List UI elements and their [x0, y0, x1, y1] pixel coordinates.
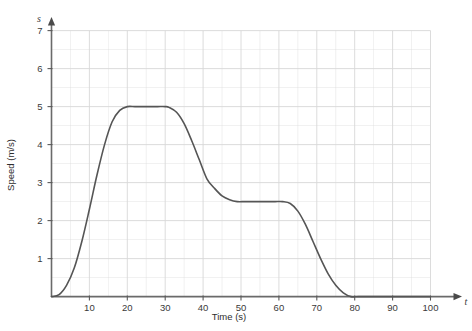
- y-axis-ticks: 1234567: [37, 25, 52, 264]
- x-axis-ticks: 102030405060708090100: [84, 296, 438, 313]
- speed-time-graph: 1234567 102030405060708090100 s t Time (…: [0, 0, 472, 331]
- y-tick-label: 7: [37, 25, 42, 36]
- x-tick-label: 40: [198, 302, 209, 313]
- x-tick-label: 10: [84, 302, 95, 313]
- x-tick-label: 100: [423, 302, 439, 313]
- y-tick-label: 3: [37, 177, 42, 188]
- x-axis-title: Time (s): [212, 311, 246, 322]
- y-tick-label: 2: [37, 215, 42, 226]
- x-tick-label: 80: [349, 302, 360, 313]
- y-axis-symbol: s: [37, 13, 41, 24]
- y-tick-label: 6: [37, 63, 42, 74]
- x-tick-label: 90: [387, 302, 398, 313]
- y-axis-title: Speed (m/s): [5, 139, 16, 191]
- x-tick-label: 30: [160, 302, 171, 313]
- x-tick-label: 60: [274, 302, 285, 313]
- axis-lines: [48, 17, 462, 300]
- y-tick-label: 5: [37, 101, 42, 112]
- x-tick-label: 20: [122, 302, 133, 313]
- y-tick-label: 1: [37, 253, 42, 264]
- x-tick-label: 70: [312, 302, 323, 313]
- chart-canvas: 1234567 102030405060708090100 s t Time (…: [0, 0, 472, 331]
- y-tick-label: 4: [37, 139, 42, 150]
- x-axis-symbol: t: [465, 296, 468, 307]
